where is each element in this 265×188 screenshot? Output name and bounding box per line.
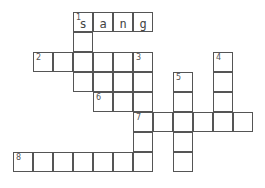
crossword-cell[interactable]: [113, 92, 133, 112]
crossword-cell[interactable]: [213, 112, 233, 132]
crossword-cell[interactable]: [53, 152, 73, 172]
crossword-cell[interactable]: [133, 152, 153, 172]
crossword-cell[interactable]: [133, 72, 153, 92]
crossword-cell[interactable]: [233, 112, 253, 132]
crossword-cell[interactable]: [173, 112, 193, 132]
clue-number: 2: [36, 54, 41, 62]
crossword-cell[interactable]: 2: [33, 52, 53, 72]
crossword-cell[interactable]: [73, 72, 93, 92]
crossword-cell[interactable]: [93, 52, 113, 72]
crossword-cell[interactable]: [53, 52, 73, 72]
crossword-cell[interactable]: [173, 132, 193, 152]
crossword-cell[interactable]: [173, 92, 193, 112]
crossword-cell[interactable]: [73, 152, 93, 172]
crossword-cell[interactable]: [133, 92, 153, 112]
crossword-cell[interactable]: 4: [213, 52, 233, 72]
crossword-cell[interactable]: [213, 92, 233, 112]
crossword-cell[interactable]: [73, 32, 93, 52]
clue-number: 4: [216, 54, 221, 62]
clue-number: 7: [136, 114, 141, 122]
cell-letter: s: [74, 17, 92, 31]
crossword-cell[interactable]: [113, 152, 133, 172]
crossword-cell[interactable]: [93, 152, 113, 172]
crossword-cell[interactable]: n: [113, 12, 133, 32]
crossword-cell[interactable]: 7: [133, 112, 153, 132]
crossword-cell[interactable]: [93, 72, 113, 92]
clue-number: 6: [96, 94, 101, 102]
clue-number: 5: [176, 74, 181, 82]
crossword-cell[interactable]: [113, 52, 133, 72]
crossword-cell[interactable]: [153, 112, 173, 132]
crossword-cell[interactable]: 6: [93, 92, 113, 112]
crossword-cell[interactable]: 5: [173, 72, 193, 92]
crossword-cell[interactable]: 1s: [73, 12, 93, 32]
clue-number: 8: [16, 154, 21, 162]
cell-letter: n: [114, 17, 132, 31]
crossword-cell[interactable]: 8: [13, 152, 33, 172]
crossword-cell[interactable]: 3: [133, 52, 153, 72]
crossword-cell[interactable]: [213, 72, 233, 92]
crossword-cell[interactable]: [113, 72, 133, 92]
crossword-cell[interactable]: [73, 52, 93, 72]
clue-number: 3: [136, 54, 141, 62]
crossword-cell[interactable]: a: [93, 12, 113, 32]
cell-letter: a: [94, 17, 112, 31]
cell-letter: g: [134, 17, 152, 31]
crossword-cell[interactable]: [33, 152, 53, 172]
crossword-cell[interactable]: [193, 112, 213, 132]
crossword-cell[interactable]: g: [133, 12, 153, 32]
crossword-cell[interactable]: [133, 132, 153, 152]
crossword-cell[interactable]: [173, 152, 193, 172]
